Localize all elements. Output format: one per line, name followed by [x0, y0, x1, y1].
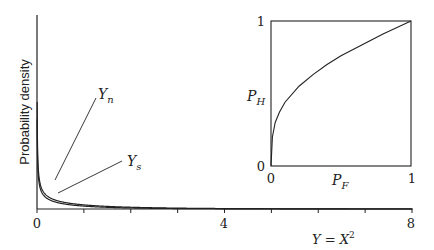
x-axis-label-main: Y = X: [312, 232, 350, 247]
annotation-yn: Yn: [98, 86, 114, 105]
annotation-line-yn: [55, 98, 96, 180]
inset-y-label: PH: [246, 88, 265, 107]
chart-root: Probability density 0 4 8 Y = X2 Yn Ys 1…: [0, 0, 434, 250]
x-axis-label-sup: 2: [349, 230, 355, 240]
annotation-ys: Ys: [127, 153, 141, 172]
x-tick-label-0: 0: [33, 216, 41, 231]
x-axis-label: Y = X2: [312, 230, 355, 247]
x-tick-label-4: 4: [220, 216, 228, 231]
inset-y-label-main: P: [246, 88, 257, 104]
inset-y-tick-1: 1: [257, 14, 265, 29]
inset-x-tick-1: 1: [408, 171, 416, 186]
annotation-line-ys: [58, 161, 122, 193]
annotation-yn-sub: n: [107, 94, 113, 105]
inset-x-label: PF: [331, 172, 349, 191]
annotation-ys-sub: s: [136, 161, 141, 172]
inset-x-label-main: P: [331, 172, 342, 188]
inset-x-tick-0: 0: [267, 171, 275, 186]
inset-y-tick-0: 0: [257, 159, 265, 174]
inset-x-label-sub: F: [340, 180, 349, 191]
x-tick-label-8: 8: [407, 216, 415, 231]
y-axis-label: Probability density: [17, 59, 32, 165]
inset-y-label-sub: H: [255, 96, 265, 107]
